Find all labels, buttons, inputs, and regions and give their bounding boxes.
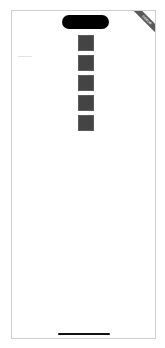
- phone-screen: DEBUG: [11, 10, 156, 339]
- divider: [18, 56, 32, 57]
- square-item: [78, 115, 94, 131]
- square-item: [78, 55, 94, 71]
- square-item: [78, 35, 94, 51]
- square-item: [78, 95, 94, 111]
- square-column: [78, 35, 94, 135]
- square-item: [78, 75, 94, 91]
- debug-banner: DEBUG: [129, 10, 156, 38]
- home-indicator[interactable]: [58, 333, 110, 335]
- dynamic-island: [62, 15, 109, 29]
